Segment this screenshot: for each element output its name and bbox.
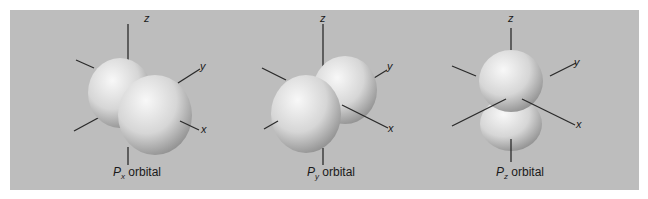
pz-orbital-caption: Pz orbital: [496, 165, 544, 181]
px-orbital-caption: Px orbital: [113, 165, 161, 181]
pz-orbital-figure: [452, 28, 576, 162]
px-x-axis-label: x: [201, 123, 207, 135]
py-z-axis-label: z: [320, 12, 326, 24]
pz-z-axis-label: z: [508, 12, 514, 24]
py-orbital-figure: [262, 24, 388, 165]
pz-y-axis-label: y: [574, 56, 580, 68]
pz-x-axis-label: x: [576, 118, 582, 130]
orbital-diagram-panel: z y x z y x z y x Px orbital Py orbital …: [10, 10, 639, 190]
orbital-drawings: [10, 10, 639, 190]
px-z-axis-label: z: [144, 12, 150, 24]
py-x-axis-label: x: [388, 122, 394, 134]
py-y-axis-label: y: [387, 60, 393, 72]
px-orbital-figure: [74, 24, 200, 165]
px-y-axis-label: y: [200, 60, 206, 72]
py-orbital-caption: Py orbital: [307, 165, 355, 181]
